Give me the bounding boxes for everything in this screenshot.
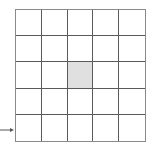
grid-cell xyxy=(119,62,145,88)
grid-cell xyxy=(93,62,119,88)
grid-cell xyxy=(16,62,42,88)
grid-cell xyxy=(68,36,94,62)
grid-cell xyxy=(42,62,68,88)
grid xyxy=(15,9,146,142)
grid-cell xyxy=(42,89,68,115)
grid-cell xyxy=(93,10,119,36)
grid-cell xyxy=(93,89,119,115)
grid-cell xyxy=(16,115,42,141)
grid-cell xyxy=(68,10,94,36)
grid-cell xyxy=(119,115,145,141)
grid-cell xyxy=(16,10,42,36)
grid-cell xyxy=(68,89,94,115)
arrow-right-icon xyxy=(0,128,14,132)
grid-cell xyxy=(68,115,94,141)
grid-cell xyxy=(16,36,42,62)
grid-cell xyxy=(119,89,145,115)
grid-cell xyxy=(68,62,94,88)
grid-cell xyxy=(42,10,68,36)
grid-cell xyxy=(93,115,119,141)
grid-cell xyxy=(119,10,145,36)
grid-cell xyxy=(16,89,42,115)
grid-cell xyxy=(93,36,119,62)
grid-cell xyxy=(42,36,68,62)
grid-cell xyxy=(42,115,68,141)
grid-cell xyxy=(119,36,145,62)
